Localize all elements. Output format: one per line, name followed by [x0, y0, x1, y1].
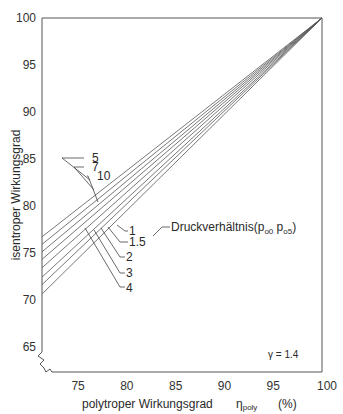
x-tick-label: 85 — [169, 379, 183, 393]
series-line-1 — [42, 18, 322, 294]
gamma-annotation: γ = 1.4 — [268, 349, 299, 360]
y-tick-label: 100 — [16, 11, 36, 25]
label-ratio-1-5: 1.5 — [129, 235, 146, 249]
y-axis-title: isentroper Wirkungsgrad — [9, 130, 23, 261]
plot-frame — [38, 18, 322, 372]
y-tick-label: 70 — [23, 293, 37, 307]
x-tick-label: 95 — [267, 379, 281, 393]
series-line-7 — [42, 18, 322, 244]
x-axis-unit: (%) — [278, 397, 297, 411]
series-line-2 — [42, 18, 322, 277]
series-line-5 — [42, 18, 322, 252]
lower-label-leaders — [85, 225, 128, 287]
x-tick-label: 100 — [317, 379, 337, 393]
data-lines — [42, 18, 322, 294]
legend-pointer-arrow — [153, 227, 170, 236]
y-tick-label: 95 — [23, 58, 37, 72]
label-ratio-2: 2 — [126, 250, 133, 264]
y-tick-label: 85 — [23, 152, 37, 166]
label-ratio-4: 4 — [126, 281, 133, 295]
x-tick-label: 80 — [120, 379, 134, 393]
x-axis-symbol: ηpoly — [236, 397, 257, 412]
series-line-1-5 — [42, 18, 322, 285]
label-ratio-3: 3 — [126, 266, 133, 280]
x-tick-label: 90 — [218, 379, 232, 393]
label-ratio-10: 10 — [97, 169, 111, 183]
chart: 65707580859095100 7580859095100 5 7 10 1… — [0, 0, 343, 414]
y-tick-label: 90 — [23, 105, 37, 119]
legend-title: Druckverhältnis(po0 po5) — [171, 220, 296, 236]
series-line-10 — [42, 18, 322, 237]
y-tick-label: 65 — [23, 340, 37, 354]
x-axis-title: polytroper Wirkungsgrad — [82, 397, 213, 411]
y-tick-label: 75 — [23, 246, 37, 260]
x-tick-label: 75 — [71, 379, 85, 393]
x-axis-ticks: 7580859095100 — [71, 379, 337, 393]
y-tick-label: 80 — [23, 199, 37, 213]
